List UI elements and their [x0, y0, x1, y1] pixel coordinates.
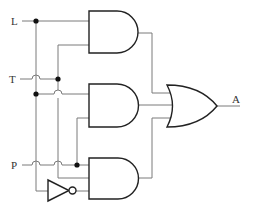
not-gate [48, 180, 76, 201]
and-gate-3 [89, 158, 138, 199]
junction-dot-l2 [33, 91, 38, 96]
and-gate-2 [89, 84, 139, 127]
junction-dot-t [55, 76, 60, 81]
junction-dot-p [74, 162, 79, 167]
input-label-l: L [11, 15, 18, 27]
junction-dot-l [33, 18, 38, 23]
wire-p [22, 118, 89, 165]
logic-circuit-diagram: L T P A [0, 0, 254, 212]
input-label-t: T [9, 73, 16, 85]
wire-t [20, 45, 89, 178]
or-gate [167, 85, 217, 127]
input-label-p: P [11, 159, 17, 171]
output-label-a: A [232, 93, 240, 105]
and-gate-1 [89, 11, 138, 53]
